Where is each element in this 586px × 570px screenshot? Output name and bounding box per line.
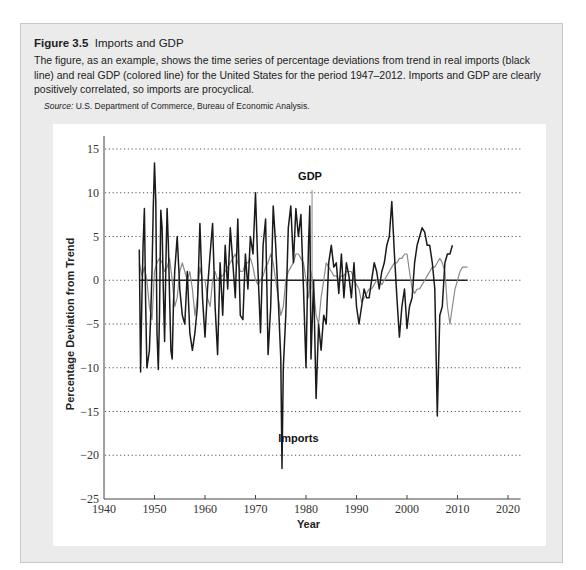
x-tick-label: 2010 (446, 502, 470, 516)
x-tick-label: 1950 (143, 502, 167, 516)
x-tick-label: 1980 (294, 502, 318, 516)
y-tick-label: 10 (87, 186, 99, 200)
figure-source: Source: U.S. Department of Commerce, Bur… (44, 100, 549, 112)
x-tick-label: 1940 (92, 502, 116, 516)
line-chart: 151050−5−10−15−20−2519401950196019701980… (53, 124, 546, 546)
figure-caption: Figure 3.5 Imports and GDP The figure, a… (34, 36, 549, 112)
figure-title: Figure 3.5 Imports and GDP (34, 36, 549, 51)
figure-panel: Figure 3.5 Imports and GDP The figure, a… (20, 23, 563, 563)
y-tick-label: −10 (80, 361, 99, 375)
source-text: U.S. Department of Commerce, Bureau of E… (76, 101, 310, 111)
x-tick-label: 1990 (345, 502, 369, 516)
x-tick-label: 2000 (395, 502, 419, 516)
y-tick-label: 15 (87, 142, 99, 156)
source-label: Source: (44, 101, 73, 111)
x-tick-label: 1960 (193, 502, 217, 516)
gdp-label: GDP (298, 170, 322, 182)
y-tick-label: −20 (80, 448, 99, 462)
x-axis-title: Year (297, 518, 321, 530)
chart-area: 151050−5−10−15−20−2519401950196019701980… (53, 124, 546, 546)
figure-number: Figure 3.5 (34, 37, 88, 49)
imports-label: Imports (278, 432, 318, 444)
figure-title-text: Imports and GDP (95, 37, 184, 49)
y-tick-label: 5 (93, 230, 99, 244)
y-tick-label: −15 (80, 405, 99, 419)
y-axis-title: Percentage Deviation from Trend (64, 238, 76, 410)
imports-line (139, 163, 452, 468)
figure-description: The figure, as an example, shows the tim… (34, 53, 549, 97)
y-tick-label: −5 (86, 317, 99, 331)
x-tick-label: 1970 (244, 502, 268, 516)
y-tick-label: 0 (93, 273, 99, 287)
x-tick-label: 2020 (496, 502, 520, 516)
